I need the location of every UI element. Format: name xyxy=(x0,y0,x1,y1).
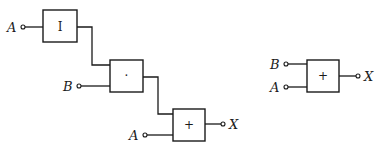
right-output-label-x: X xyxy=(363,69,374,84)
output-label-x: X xyxy=(228,117,239,132)
identity-gate: I xyxy=(43,10,77,42)
left-circuit: A I B · A + X xyxy=(6,10,239,143)
input-label-a2: A xyxy=(128,128,138,143)
input-label-a1: A xyxy=(6,20,16,35)
right-output-terminal-x[interactable] xyxy=(356,74,360,78)
right-or-gate-symbol: + xyxy=(318,69,328,83)
and-gate: · xyxy=(110,60,143,92)
input-terminal-b[interactable] xyxy=(77,84,81,88)
input-label-b: B xyxy=(62,79,73,94)
input-terminal-a2[interactable] xyxy=(143,133,147,137)
right-input-terminal-a[interactable] xyxy=(284,85,288,89)
and-gate-symbol: · xyxy=(125,69,129,83)
right-input-label-a: A xyxy=(269,80,279,95)
logic-diagram: A I B · A + X xyxy=(0,0,381,154)
or-gate: + xyxy=(173,109,205,141)
right-input-terminal-b[interactable] xyxy=(284,62,288,66)
wire-identity-to-and xyxy=(77,27,110,65)
output-terminal-x[interactable] xyxy=(221,122,225,126)
or-gate-symbol: + xyxy=(184,118,194,132)
right-circuit: B A + X xyxy=(269,57,374,95)
wire-and-to-or xyxy=(143,77,173,114)
input-terminal-a1[interactable] xyxy=(21,25,25,29)
right-or-gate: + xyxy=(307,60,339,92)
right-input-label-b: B xyxy=(269,57,280,72)
identity-gate-symbol: I xyxy=(58,20,63,34)
